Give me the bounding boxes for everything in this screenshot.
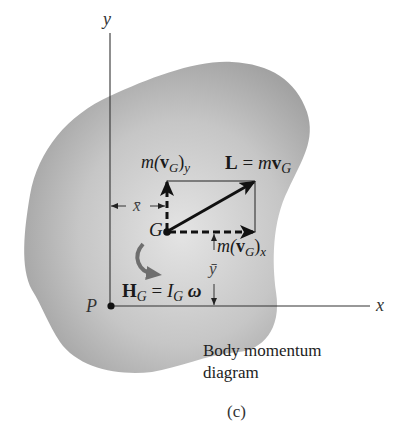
linear-momentum-symbol: L [225, 152, 238, 173]
velocity-subscript: G [281, 161, 291, 176]
velocity-symbol: v [160, 152, 169, 172]
equals-sign: = [238, 152, 258, 173]
body-momentum-diagram: y x P G L = mvG m(vG)y m(vG)x HG = IG ω … [0, 0, 412, 432]
panel-label: (c) [227, 403, 246, 420]
angular-momentum-subscript: G [137, 289, 147, 304]
y-axis-label: y [103, 10, 111, 28]
velocity-symbol: v [272, 152, 282, 173]
mass-symbol: m [258, 152, 272, 173]
angular-momentum-symbol: H [122, 280, 137, 301]
mass-paren: m( [141, 152, 160, 172]
center-of-mass-label: G [149, 220, 163, 239]
velocity-symbol: v [236, 236, 245, 256]
velocity-subscript: G [169, 160, 178, 175]
y-momentum-component-label: m(vG)y [141, 153, 190, 175]
angular-momentum-label: HG = IG ω [122, 281, 202, 304]
mass-paren: m( [217, 236, 236, 256]
moment-of-inertia-subscript: G [173, 289, 183, 304]
axis-subscript: x [260, 244, 266, 259]
axis-subscript: y [184, 160, 190, 175]
x-axis-label: x [376, 296, 384, 314]
linear-momentum-label: L = mvG [225, 153, 291, 176]
point-p-dot [107, 302, 114, 309]
origin-p-label: P [86, 297, 97, 315]
center-of-mass-dot [163, 228, 171, 236]
velocity-subscript: G [245, 244, 254, 259]
equals-sign: = [147, 280, 167, 301]
angular-velocity-symbol: ω [183, 280, 202, 301]
x-momentum-component-label: m(vG)x [217, 237, 266, 259]
caption-line-1: Body momentum [203, 340, 322, 362]
caption-line-2: diagram [203, 362, 322, 384]
y-bar-label: ȳ [209, 260, 217, 277]
diagram-caption: Body momentum diagram [203, 340, 322, 384]
x-bar-label: x̄ [133, 197, 141, 214]
